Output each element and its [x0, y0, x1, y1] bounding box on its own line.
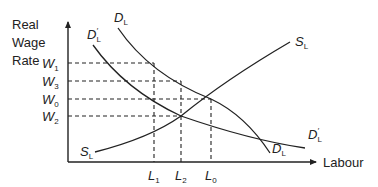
label-dl-shifted-bottom: DL′ [308, 126, 322, 144]
label-w3: W3 [42, 74, 59, 91]
label-w1: W1 [42, 56, 59, 73]
label-dl-top: DL [114, 10, 128, 27]
label-dl-bottom: DL [272, 141, 286, 158]
label-sl-top: SL [295, 34, 309, 51]
label-l1: L1 [148, 168, 160, 185]
label-l2: L2 [175, 168, 187, 185]
supply-curve-sl [95, 42, 290, 152]
label-w2: W2 [42, 109, 59, 126]
label-l0: L0 [205, 168, 217, 185]
y-axis-label-line1: Real [12, 17, 39, 32]
y-axis-label-line2: Wage [12, 35, 45, 50]
demand-curve-dl [118, 28, 270, 153]
label-w0: W0 [42, 92, 59, 109]
x-axis-label: Labour [323, 155, 364, 170]
label-dl-shifted-top: DL′ [87, 26, 101, 44]
y-axis-label-line3: Rate [12, 53, 39, 68]
demand-curve-dl-shifted [93, 45, 305, 148]
label-sl-bottom: SL [80, 144, 94, 161]
labour-market-diagram: Real Wage Rate Labour W1 W3 W0 W2 L1 L2 … [0, 0, 378, 187]
